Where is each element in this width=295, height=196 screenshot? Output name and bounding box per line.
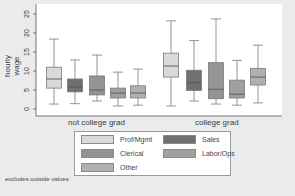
box-clerical — [90, 76, 105, 95]
box-sales — [68, 79, 83, 92]
legend-swatch-other — [81, 163, 114, 172]
legend: Prof/Mgmt Sales Clerical Labor/Ops Other — [74, 131, 231, 176]
legend-label: Clerical — [120, 150, 143, 157]
legend-item-clerical: Clerical — [81, 149, 143, 158]
box-clerical — [209, 63, 224, 99]
legend-label: Sales — [202, 136, 220, 143]
legend-item-prof-mgmt: Prof/Mgmt — [81, 135, 152, 144]
legend-swatch-prof-mgmt — [81, 135, 114, 144]
y-tick-label: 15 — [23, 48, 30, 56]
box-prof-mgmt — [47, 67, 62, 88]
legend-label: Labor/Ops — [202, 150, 235, 157]
box-other — [131, 86, 146, 98]
y-tick-label: 5 — [23, 88, 30, 92]
box-prof-mgmt — [164, 53, 179, 77]
category-label-college-grad: college grad — [195, 118, 239, 127]
legend-swatch-clerical — [81, 149, 114, 158]
y-tick-label: 20 — [23, 29, 30, 37]
box-labor-ops — [230, 80, 245, 98]
chart-note: excludes outside values — [5, 176, 69, 182]
legend-item-labor-ops: Labor/Ops — [163, 149, 235, 158]
y-tick-label: 0 — [23, 107, 30, 111]
y-axis-label: hourly wage — [3, 46, 21, 86]
legend-label: Other — [120, 164, 138, 171]
legend-swatch-sales — [163, 135, 196, 144]
legend-item-sales: Sales — [163, 135, 220, 144]
category-label-not-college-grad: not college grad — [68, 118, 125, 127]
legend-item-other: Other — [81, 163, 138, 172]
y-tick-label: 10 — [23, 67, 30, 75]
legend-swatch-labor-ops — [163, 149, 196, 158]
y-tick-label: 25 — [23, 10, 30, 18]
legend-label: Prof/Mgmt — [120, 136, 152, 143]
box-sales — [187, 70, 202, 90]
